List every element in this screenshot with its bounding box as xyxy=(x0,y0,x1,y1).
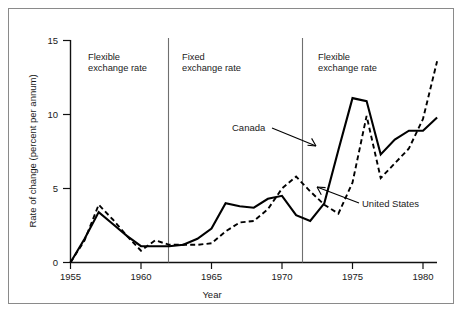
region-3-line-2: exchange rate xyxy=(318,63,377,73)
chart-canvas: 15 10 5 0 1955 1960 1965 1970 1975 1980 … xyxy=(0,0,464,318)
x-axis xyxy=(71,263,438,270)
figure-container: 15 10 5 0 1955 1960 1965 1970 1975 1980 … xyxy=(0,0,464,318)
y-tick-label-5: 5 xyxy=(53,183,58,194)
x-tick-label-1955: 1955 xyxy=(60,271,81,282)
y-axis xyxy=(63,40,71,263)
y-tick-label-10: 10 xyxy=(47,109,58,120)
region-label-fixed: Fixed exchange rate xyxy=(182,52,241,73)
series-label-united-states: United States xyxy=(362,198,419,209)
region-1-line-2: exchange rate xyxy=(88,63,147,73)
canada-leader-line xyxy=(272,128,316,146)
x-axis-title: Year xyxy=(202,289,221,300)
x-tick-label-1970: 1970 xyxy=(271,271,292,282)
y-axis-title: Rate of change (percent per annum) xyxy=(27,74,38,227)
y-tick-label-15: 15 xyxy=(47,35,58,46)
region-2-line-2: exchange rate xyxy=(182,63,241,73)
series-line-united-states xyxy=(71,61,438,262)
x-tick-label-1975: 1975 xyxy=(342,271,363,282)
y-tick-label-0: 0 xyxy=(53,257,58,268)
region-1-line-1: Flexible xyxy=(88,52,120,62)
united-states-leader-line xyxy=(317,187,359,203)
region-2-line-1: Fixed xyxy=(182,52,205,62)
x-tick-label-1960: 1960 xyxy=(130,271,151,282)
region-label-flexible-1: Flexible exchange rate xyxy=(88,52,147,73)
series-label-canada: Canada xyxy=(232,122,266,133)
region-3-line-1: Flexible xyxy=(318,52,350,62)
x-tick-label-1980: 1980 xyxy=(412,271,433,282)
region-label-flexible-2: Flexible exchange rate xyxy=(318,52,377,73)
x-tick-label-1965: 1965 xyxy=(201,271,222,282)
